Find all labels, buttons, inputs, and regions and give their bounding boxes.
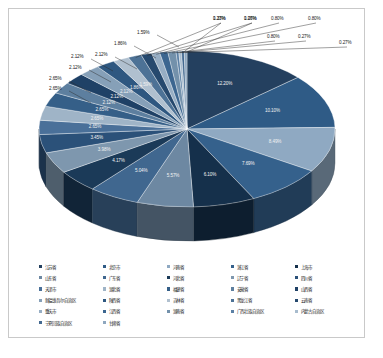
legend-item[interactable]: 天津市 xyxy=(39,283,103,294)
legend-swatch-icon xyxy=(167,299,170,302)
legend-item[interactable]: 陕西省 xyxy=(103,295,167,306)
legend-item[interactable]: 甘肃省 xyxy=(103,317,167,328)
legend-swatch-icon xyxy=(103,321,106,324)
pie-data-label: 5.04% xyxy=(135,169,148,174)
pie-data-label: 0.80% xyxy=(271,17,284,22)
legend-swatch-icon xyxy=(103,299,106,302)
legend-swatch-icon xyxy=(167,287,170,290)
legend-swatch-icon xyxy=(39,265,42,268)
pie-data-label: 2.65% xyxy=(49,77,62,82)
legend-label: 新疆维吾尔自治区 xyxy=(45,297,76,303)
pie-data-label: 0.80% xyxy=(267,35,280,40)
pie-data-label: 1.86% xyxy=(114,42,127,47)
leader-line xyxy=(156,23,279,54)
legend-swatch-icon xyxy=(167,265,170,268)
legend-swatch-icon xyxy=(295,287,298,290)
legend-item[interactable]: 浙江省 xyxy=(231,261,295,272)
legend-item[interactable]: 湖北省 xyxy=(103,283,167,294)
legend-row: 重庆市江西省湖南省广西壮族自治区内蒙古自治区 xyxy=(39,306,359,317)
chart-frame: 12.20%10.10%8.49%7.69%6.10%5.57%5.04%4.1… xyxy=(8,8,365,338)
legend-item[interactable]: 云南省 xyxy=(295,295,359,306)
legend-item[interactable]: 江西省 xyxy=(103,306,167,317)
pie-data-label: 2.65% xyxy=(96,108,109,113)
chart-legend: 江苏省北京市河南省浙江省上海市山东省广东省河北省辽宁省四川省天津市湖北省福建省安… xyxy=(39,261,359,331)
pie-data-label: 0.27% xyxy=(339,41,352,46)
pie-data-label: 10.10% xyxy=(265,109,280,114)
legend-label: 宁夏回族自治区 xyxy=(45,320,72,326)
legend-swatch-icon xyxy=(295,310,298,313)
pie-plot-area: 12.20%10.10%8.49%7.69%6.10%5.57%5.04%4.1… xyxy=(9,9,364,259)
pie-data-label: 2.12% xyxy=(120,90,133,95)
legend-swatch-icon xyxy=(103,310,106,313)
legend-swatch-icon xyxy=(103,287,106,290)
legend-item[interactable]: 宁夏回族自治区 xyxy=(39,317,103,328)
legend-item[interactable]: 福建省 xyxy=(167,283,231,294)
legend-item[interactable]: 河北省 xyxy=(167,272,231,283)
legend-item[interactable]: 黑龙江省 xyxy=(231,295,295,306)
legend-row: 天津市湖北省福建省安徽省山西省 xyxy=(39,283,359,294)
legend-label: 云南省 xyxy=(301,297,313,303)
legend-item[interactable]: 广东省 xyxy=(103,272,167,283)
legend-label: 北京市 xyxy=(109,264,121,270)
legend-row: 山东省广东省河北省辽宁省四川省 xyxy=(39,272,359,283)
legend-label: 浙江省 xyxy=(237,264,249,270)
legend-swatch-icon xyxy=(39,287,42,290)
legend-item[interactable]: 辽宁省 xyxy=(231,272,295,283)
legend-swatch-icon xyxy=(231,265,234,268)
leader-line xyxy=(180,47,347,53)
legend-item[interactable]: 安徽省 xyxy=(231,283,295,294)
legend-item[interactable]: 新疆维吾尔自治区 xyxy=(39,295,103,306)
pie-data-label: 4.17% xyxy=(112,159,125,164)
legend-swatch-icon xyxy=(39,310,42,313)
legend-swatch-icon xyxy=(295,276,298,279)
pie-data-label: 1.59% xyxy=(140,83,153,88)
legend-item[interactable]: 湖南省 xyxy=(167,306,231,317)
pie-data-label: 0.27% xyxy=(213,17,226,22)
legend-label: 湖南省 xyxy=(173,308,185,314)
legend-label: 广西壮族自治区 xyxy=(237,308,264,314)
pie-data-label: 3.98% xyxy=(98,148,111,153)
legend-item[interactable]: 上海市 xyxy=(295,261,359,272)
legend-item[interactable]: 河南省 xyxy=(167,261,231,272)
legend-label: 甘肃省 xyxy=(109,320,121,326)
legend-label: 福建省 xyxy=(173,286,185,292)
legend-item[interactable]: 四川省 xyxy=(295,272,359,283)
legend-item[interactable]: 山东省 xyxy=(39,272,103,283)
legend-swatch-icon xyxy=(167,310,170,313)
legend-label: 广东省 xyxy=(109,275,121,281)
pie-data-label: 0.27% xyxy=(244,17,257,22)
legend-swatch-icon xyxy=(39,321,42,324)
legend-swatch-icon xyxy=(39,299,42,302)
legend-item[interactable]: 内蒙古自治区 xyxy=(295,306,359,317)
pie-data-label: 12.20% xyxy=(217,82,232,87)
legend-label: 安徽省 xyxy=(237,286,249,292)
legend-swatch-icon xyxy=(231,299,234,302)
pie-data-label: 2.12% xyxy=(69,66,82,71)
legend-label: 四川省 xyxy=(301,275,313,281)
legend-swatch-icon xyxy=(231,287,234,290)
legend-label: 黑龙江省 xyxy=(237,297,253,303)
legend-row: 宁夏回族自治区甘肃省 xyxy=(39,317,359,328)
legend-label: 山东省 xyxy=(45,275,57,281)
legend-item[interactable]: 山西省 xyxy=(295,283,359,294)
legend-item[interactable]: 广西壮族自治区 xyxy=(231,306,295,317)
legend-item[interactable]: 重庆市 xyxy=(39,306,103,317)
legend-label: 湖北省 xyxy=(109,286,121,292)
legend-row: 江苏省北京市河南省浙江省上海市 xyxy=(39,261,359,272)
legend-item[interactable]: 吉林省 xyxy=(167,295,231,306)
legend-item[interactable]: 江苏省 xyxy=(39,261,103,272)
legend-swatch-icon xyxy=(295,299,298,302)
legend-label: 上海市 xyxy=(301,264,313,270)
legend-label: 天津市 xyxy=(45,286,57,292)
legend-label: 江苏省 xyxy=(45,264,57,270)
pie-data-label: 2.12% xyxy=(71,55,84,60)
pie-data-label: 5.57% xyxy=(167,174,180,179)
legend-label: 山西省 xyxy=(301,286,313,292)
pie-data-label: 2.65% xyxy=(91,117,104,122)
legend-item[interactable]: 北京市 xyxy=(103,261,167,272)
pie-data-label: 1.59% xyxy=(137,31,150,36)
pie-chart-svg xyxy=(9,9,364,259)
legend-swatch-icon xyxy=(39,276,42,279)
legend-row: 新疆维吾尔自治区陕西省吉林省黑龙江省云南省 xyxy=(39,295,359,306)
legend-swatch-icon xyxy=(295,265,298,268)
